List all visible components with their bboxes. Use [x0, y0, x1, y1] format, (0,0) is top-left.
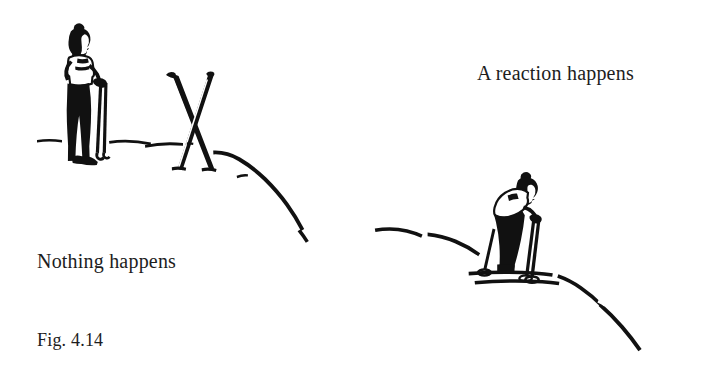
figure-number-label: Fig. 4.14	[37, 330, 103, 351]
caption-nothing-happens: Nothing happens	[37, 250, 176, 273]
descending-slope-line-right	[557, 274, 641, 351]
flat-ground-line	[37, 139, 183, 148]
descending-slope-line-left	[213, 151, 309, 243]
crouching-skier-figure	[478, 172, 542, 283]
mid-ground-line	[375, 227, 480, 256]
standing-skier-figure	[64, 23, 110, 165]
skis-on-snow	[469, 270, 560, 285]
caption-reaction-happens: A reaction happens	[477, 62, 634, 85]
figure-illustration	[0, 0, 701, 384]
crossed-skis	[166, 71, 216, 172]
